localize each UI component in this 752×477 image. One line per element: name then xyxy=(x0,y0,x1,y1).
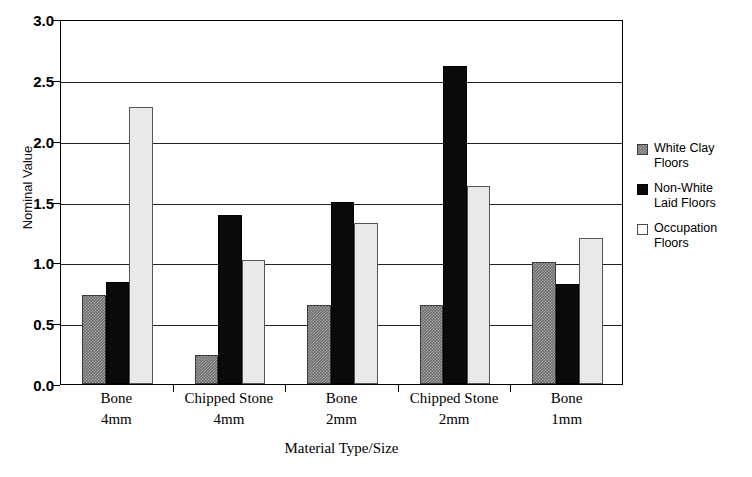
bar xyxy=(331,202,355,385)
y-tick-label: 0.5 xyxy=(18,316,54,333)
bar-chart: Nominal Value 0.00.51.01.52.02.53.0 Bone… xyxy=(0,0,752,477)
x-category-size: 2mm xyxy=(398,409,511,430)
x-category-size: 1mm xyxy=(510,409,623,430)
bar-group xyxy=(532,21,603,384)
bar xyxy=(443,66,467,384)
bar xyxy=(129,107,153,384)
bar-group xyxy=(307,21,378,384)
bar xyxy=(579,238,603,384)
legend-item: OccupationFloors xyxy=(637,221,749,251)
x-axis-title: Material Type/Size xyxy=(60,440,623,457)
bar xyxy=(82,295,106,384)
x-category-name: Bone xyxy=(510,388,623,409)
bar xyxy=(467,186,491,384)
bar xyxy=(420,305,444,384)
legend-label-line2: Floors xyxy=(654,156,714,171)
legend-label-line2: Floors xyxy=(654,236,717,251)
x-category-size: 4mm xyxy=(60,409,173,430)
x-category-size: 4mm xyxy=(173,409,286,430)
x-category-label: Bone1mm xyxy=(510,388,623,430)
y-tick-mark xyxy=(53,203,60,204)
legend-item: Non-WhiteLaid Floors xyxy=(637,181,749,211)
y-tick-mark xyxy=(53,142,60,143)
bar xyxy=(532,262,556,384)
y-tick-label: 1.0 xyxy=(18,255,54,272)
legend-label: White ClayFloors xyxy=(654,141,714,171)
y-tick-mark xyxy=(53,385,60,386)
bar-group xyxy=(82,21,153,384)
x-category-label: Bone4mm xyxy=(60,388,173,430)
legend-label: OccupationFloors xyxy=(654,221,717,251)
bars-layer xyxy=(61,21,622,384)
x-category-label: Bone2mm xyxy=(285,388,398,430)
x-category-name: Bone xyxy=(60,388,173,409)
plot-area xyxy=(60,20,623,385)
y-tick-label: 0.0 xyxy=(18,377,54,394)
legend-label-line1: Occupation xyxy=(654,221,717,235)
x-category-size: 2mm xyxy=(285,409,398,430)
y-tick-mark xyxy=(53,324,60,325)
legend: White ClayFloorsNon-WhiteLaid FloorsOccu… xyxy=(637,141,749,261)
y-tick-mark xyxy=(53,20,60,21)
legend-label-line2: Laid Floors xyxy=(654,196,716,211)
bar xyxy=(354,223,378,384)
legend-label-line1: Non-White xyxy=(654,181,713,195)
x-axis-category-labels: Bone4mmChipped Stone4mmBone2mmChipped St… xyxy=(60,388,623,440)
bar-group xyxy=(420,21,491,384)
bar-group xyxy=(195,21,266,384)
bar xyxy=(218,215,242,384)
bar xyxy=(242,260,266,384)
x-category-label: Chipped Stone2mm xyxy=(398,388,511,430)
y-tick-mark xyxy=(53,263,60,264)
y-axis-tick-labels: 0.00.51.01.52.02.53.0 xyxy=(8,0,54,477)
x-category-label: Chipped Stone4mm xyxy=(173,388,286,430)
x-category-name: Chipped Stone xyxy=(173,388,286,409)
bar xyxy=(106,282,130,384)
y-tick-label: 2.5 xyxy=(18,72,54,89)
y-tick-label: 1.5 xyxy=(18,194,54,211)
y-tick-mark xyxy=(53,81,60,82)
legend-label-line1: White Clay xyxy=(654,141,714,155)
x-category-name: Chipped Stone xyxy=(398,388,511,409)
bar xyxy=(307,305,331,384)
legend-swatch xyxy=(637,144,648,155)
bar xyxy=(556,284,580,384)
y-tick-label: 3.0 xyxy=(18,12,54,29)
x-category-name: Bone xyxy=(285,388,398,409)
legend-swatch xyxy=(637,184,648,195)
y-tick-label: 2.0 xyxy=(18,133,54,150)
legend-swatch xyxy=(637,224,648,235)
legend-label: Non-WhiteLaid Floors xyxy=(654,181,716,211)
legend-item: White ClayFloors xyxy=(637,141,749,171)
bar xyxy=(195,355,219,384)
